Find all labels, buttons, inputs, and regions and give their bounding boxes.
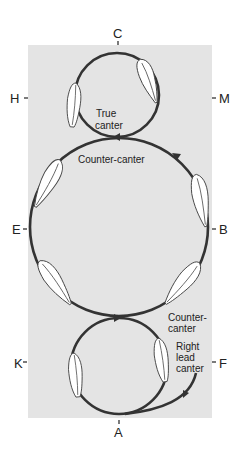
marker-f: F [219, 356, 227, 371]
canter-diagram: C H M E B K F A True canter Counter-cant… [0, 0, 245, 459]
true-canter-label-line1: True [96, 108, 117, 119]
marker-m: M [219, 91, 230, 106]
counter-canter-label: Counter-canter [78, 154, 145, 165]
marker-a: A [114, 425, 123, 440]
right-lead-label-line3: canter [176, 363, 204, 374]
counter-canter-lower-line1: Counter- [168, 312, 207, 323]
marker-k: K [14, 356, 23, 371]
right-lead-label-line2: lead [176, 352, 195, 363]
true-canter-label-line2: canter [95, 120, 123, 131]
marker-e: E [12, 222, 21, 237]
marker-c: C [113, 26, 122, 41]
marker-b: B [219, 222, 228, 237]
right-lead-label-line1: Right [176, 341, 200, 352]
marker-h: H [10, 91, 19, 106]
counter-canter-lower-line2: canter [168, 323, 196, 334]
